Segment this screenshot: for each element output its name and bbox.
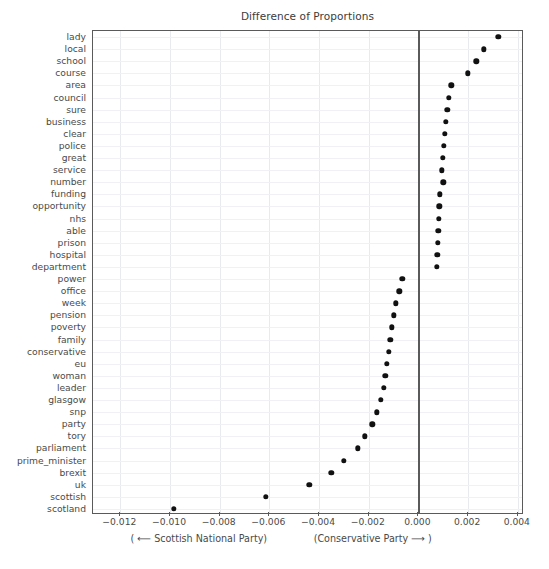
- gridline-horizontal: [93, 194, 522, 195]
- gridline-horizontal: [93, 412, 522, 413]
- x-tick-label: 0.002: [454, 516, 480, 527]
- x-axis-tick-labels: −0.012−0.010−0.008−0.006−0.004−0.0020.00…: [0, 516, 549, 532]
- data-point: [436, 216, 441, 221]
- gridline-horizontal: [93, 315, 522, 316]
- gridline-vertical: [468, 31, 469, 513]
- gridline-horizontal: [93, 327, 522, 328]
- data-point: [481, 46, 486, 51]
- x-axis-annotation: ( ⟵ Scottish National Party): [131, 533, 268, 544]
- x-axis-annotation: (Conservative Party ⟶ ): [314, 533, 432, 544]
- y-tick-label: glasgow: [0, 394, 86, 405]
- data-point: [443, 119, 448, 124]
- y-tick-label: service: [0, 164, 86, 175]
- chart-title: Difference of Proportions: [92, 10, 523, 22]
- data-point: [362, 434, 367, 439]
- y-tick-label: lady: [0, 31, 86, 42]
- gridline-horizontal: [93, 122, 522, 123]
- x-tick-label: −0.010: [152, 516, 186, 527]
- gridline-horizontal: [93, 448, 522, 449]
- x-tick-label: −0.006: [251, 516, 285, 527]
- gridline-horizontal: [93, 255, 522, 256]
- gridline-vertical: [220, 31, 221, 513]
- y-tick-label: conservative: [0, 345, 86, 356]
- y-tick-label: department: [0, 260, 86, 271]
- gridline-horizontal: [93, 170, 522, 171]
- gridline-horizontal: [93, 279, 522, 280]
- y-tick-label: scotland: [0, 502, 86, 513]
- y-tick-label: opportunity: [0, 200, 86, 211]
- data-point: [306, 482, 311, 487]
- data-point: [355, 446, 360, 451]
- y-tick-label: area: [0, 79, 86, 90]
- y-tick-label: pension: [0, 309, 86, 320]
- gridline-horizontal: [93, 303, 522, 304]
- data-point: [435, 252, 440, 257]
- gridline-horizontal: [93, 85, 522, 86]
- data-point: [381, 385, 386, 390]
- y-tick-label: school: [0, 55, 86, 66]
- gridline-horizontal: [93, 182, 522, 183]
- gridline-horizontal: [93, 146, 522, 147]
- y-tick-label: week: [0, 297, 86, 308]
- data-point: [437, 204, 442, 209]
- data-point: [389, 325, 394, 330]
- y-tick-label: office: [0, 285, 86, 296]
- data-point: [434, 264, 439, 269]
- data-point: [465, 71, 470, 76]
- gridline-horizontal: [93, 73, 522, 74]
- y-tick-label: brexit: [0, 466, 86, 477]
- data-point: [384, 361, 389, 366]
- data-point: [341, 458, 346, 463]
- data-point: [393, 301, 398, 306]
- gridline-horizontal: [93, 461, 522, 462]
- y-tick-label: local: [0, 43, 86, 54]
- y-tick-label: leader: [0, 381, 86, 392]
- data-point: [386, 349, 391, 354]
- y-tick-label: eu: [0, 357, 86, 368]
- y-tick-label: woman: [0, 369, 86, 380]
- zero-reference-line: [418, 31, 419, 513]
- x-tick-label: −0.002: [351, 516, 385, 527]
- y-tick-label: council: [0, 91, 86, 102]
- y-tick-label: sure: [0, 103, 86, 114]
- y-tick-label: tory: [0, 430, 86, 441]
- data-point: [400, 276, 405, 281]
- data-point: [370, 422, 375, 427]
- gridline-horizontal: [93, 473, 522, 474]
- gridline-vertical: [319, 31, 320, 513]
- chart-figure: Difference of Proportions ladylocalschoo…: [0, 0, 549, 569]
- x-tick-label: 0.004: [504, 516, 530, 527]
- gridline-horizontal: [93, 376, 522, 377]
- data-point: [397, 288, 402, 293]
- x-tick-label: −0.004: [301, 516, 335, 527]
- y-tick-label: power: [0, 273, 86, 284]
- gridline-horizontal: [93, 110, 522, 111]
- y-tick-label: family: [0, 333, 86, 344]
- data-point: [440, 155, 445, 160]
- gridline-horizontal: [93, 340, 522, 341]
- gridline-horizontal: [93, 243, 522, 244]
- y-axis-tick-labels: ladylocalschoolcourseareacouncilsurebusi…: [0, 30, 86, 514]
- data-point: [435, 240, 440, 245]
- y-tick-label: prime_minister: [0, 454, 86, 465]
- data-point: [388, 337, 393, 342]
- x-tick-label: −0.008: [202, 516, 236, 527]
- x-tick-label: −0.012: [102, 516, 136, 527]
- y-tick-label: hospital: [0, 248, 86, 259]
- data-point: [329, 470, 334, 475]
- gridline-horizontal: [93, 291, 522, 292]
- gridline-horizontal: [93, 231, 522, 232]
- gridline-horizontal: [93, 98, 522, 99]
- y-tick-label: snp: [0, 406, 86, 417]
- gridline-horizontal: [93, 219, 522, 220]
- y-tick-label: course: [0, 67, 86, 78]
- y-tick-label: police: [0, 139, 86, 150]
- data-point: [445, 107, 450, 112]
- data-point: [441, 180, 446, 185]
- data-point: [391, 313, 396, 318]
- gridline-vertical: [518, 31, 519, 513]
- y-tick-label: scottish: [0, 490, 86, 501]
- gridline-horizontal: [93, 206, 522, 207]
- y-tick-label: nhs: [0, 212, 86, 223]
- gridline-horizontal: [93, 400, 522, 401]
